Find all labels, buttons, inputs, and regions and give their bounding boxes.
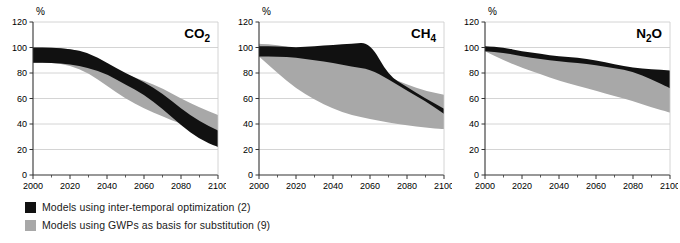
y-tick-label-20: 20 (243, 145, 253, 155)
x-tick-label-2020: 2020 (512, 181, 532, 191)
y-tick-label-40: 40 (17, 119, 27, 129)
panel-title-ch4: CH4 (411, 26, 437, 44)
x-tick-label-2000: 2000 (475, 181, 495, 191)
legend-label-gray: Models using GWPs as basis for substitut… (42, 219, 270, 231)
x-tick-label-2000: 2000 (23, 181, 43, 191)
x-tick-label-2020: 2020 (60, 181, 80, 191)
y-tick-label-0: 0 (248, 170, 253, 180)
plot-area-co2: 020406080100120200020202040206020802100%… (12, 6, 226, 191)
y-tick-label-20: 20 (469, 145, 479, 155)
x-tick-label-2080: 2080 (397, 181, 417, 191)
y-tick-label-100: 100 (464, 43, 479, 53)
legend: Models using inter-temporal optimization… (25, 198, 445, 234)
plot-area-ch4: 020406080100120200020202040206020802100%… (238, 6, 452, 191)
y-tick-label-40: 40 (243, 119, 253, 129)
legend-swatch-black-icon (25, 202, 36, 213)
y-tick-label-0: 0 (22, 170, 27, 180)
axis-unit-label: % (36, 6, 45, 17)
x-tick-label-2100: 2100 (208, 181, 226, 191)
figure-root: 020406080100120200020202040206020802100%… (0, 0, 680, 243)
chart-panel-co2: 020406080100120200020202040206020802100%… (0, 0, 226, 196)
chart-panel-ch4: 020406080100120200020202040206020802100%… (226, 0, 452, 196)
x-tick-label-2040: 2040 (549, 181, 569, 191)
panel-title-subscript: 2 (204, 33, 210, 44)
panel-title-co2: CO2 (184, 26, 210, 44)
y-tick-label-100: 100 (238, 43, 253, 53)
chart-svg-n2o: 020406080100120200020202040206020802100%… (452, 0, 678, 196)
panel-row: 020406080100120200020202040206020802100%… (0, 0, 680, 196)
x-tick-label-2060: 2060 (134, 181, 154, 191)
y-tick-label-60: 60 (17, 94, 27, 104)
y-tick-label-60: 60 (469, 94, 479, 104)
y-tick-label-20: 20 (17, 145, 27, 155)
plot-area-n2o: 020406080100120200020202040206020802100%… (464, 6, 678, 191)
y-tick-label-0: 0 (474, 170, 479, 180)
x-tick-label-2100: 2100 (434, 181, 452, 191)
y-tick-label-80: 80 (17, 68, 27, 78)
panel-title-main: N (636, 26, 646, 41)
panel-title-subscript: 4 (430, 33, 436, 44)
axis-unit-label: % (262, 6, 271, 17)
x-tick-label-2100: 2100 (660, 181, 678, 191)
panel-title-n2o: N2O (636, 26, 662, 44)
y-tick-label-40: 40 (469, 119, 479, 129)
x-tick-label-2040: 2040 (97, 181, 117, 191)
axis-unit-label: % (488, 6, 497, 17)
chart-panel-n2o: 020406080100120200020202040206020802100%… (452, 0, 678, 196)
y-tick-label-60: 60 (243, 94, 253, 104)
x-tick-label-2060: 2060 (586, 181, 606, 191)
legend-label-black: Models using inter-temporal optimization… (42, 201, 251, 213)
panel-title-main: CH (411, 26, 431, 41)
y-tick-label-120: 120 (12, 17, 27, 27)
x-tick-label-2080: 2080 (171, 181, 191, 191)
x-tick-label-2040: 2040 (323, 181, 343, 191)
panel-title-main: CO (184, 26, 204, 41)
x-tick-label-2000: 2000 (249, 181, 269, 191)
x-tick-label-2020: 2020 (286, 181, 306, 191)
y-tick-label-100: 100 (12, 43, 27, 53)
x-tick-label-2080: 2080 (623, 181, 643, 191)
y-tick-label-80: 80 (469, 68, 479, 78)
legend-item-gray: Models using GWPs as basis for substitut… (25, 216, 445, 234)
legend-swatch-gray-icon (25, 220, 36, 231)
chart-svg-co2: 020406080100120200020202040206020802100%… (0, 0, 226, 196)
y-tick-label-80: 80 (243, 68, 253, 78)
chart-svg-ch4: 020406080100120200020202040206020802100%… (226, 0, 452, 196)
panel-title-tail: O (651, 26, 662, 41)
legend-item-black: Models using inter-temporal optimization… (25, 198, 445, 216)
band-gwp-n2o (485, 46, 670, 112)
y-tick-label-120: 120 (464, 17, 479, 27)
x-tick-label-2060: 2060 (360, 181, 380, 191)
y-tick-label-120: 120 (238, 17, 253, 27)
